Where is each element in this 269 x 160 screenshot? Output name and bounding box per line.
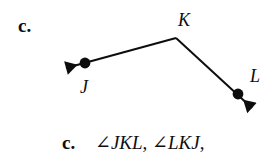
point-dot-J [80, 58, 91, 69]
figure-page: c. K J L c. ∠JKL, ∠LKJ, [0, 0, 269, 160]
angle-name-1: JKL [111, 132, 143, 153]
answer-angle-names: ∠JKL, ∠LKJ, [95, 133, 204, 152]
point-label-J: J [80, 78, 88, 96]
point-dot-L [233, 89, 244, 100]
angle-symbol-1: ∠ [95, 132, 111, 153]
angle-symbol-2: ∠ [152, 132, 168, 153]
point-label-L: L [250, 67, 260, 85]
answer-item-letter: c. [62, 133, 75, 152]
angle-name-2: LKJ [168, 132, 200, 153]
point-label-K: K [178, 11, 190, 29]
angle-terminator: , [200, 132, 205, 153]
angle-separator: , [143, 132, 153, 153]
